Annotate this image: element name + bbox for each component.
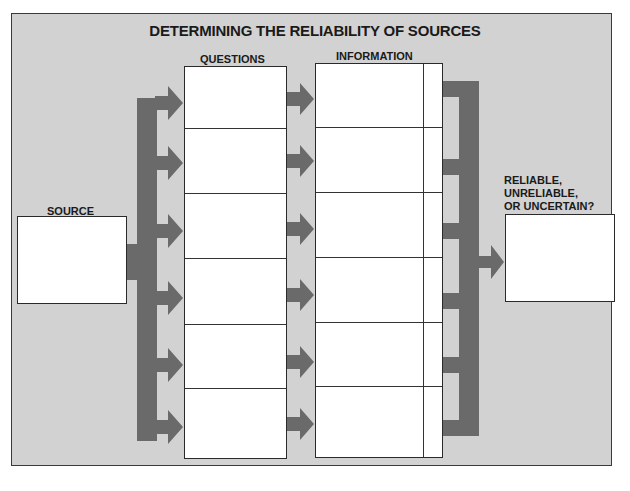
arrow-icon xyxy=(155,348,183,382)
arrow-icon xyxy=(155,86,183,120)
bracket-tab xyxy=(443,81,463,97)
verdict-label: RELIABLE, UNRELIABLE, OR UNCERTAIN? xyxy=(504,174,594,213)
arrow-icon xyxy=(155,281,183,315)
bracket-tab xyxy=(443,223,463,239)
info-to-verdict-arrow xyxy=(479,245,504,279)
bracket-tab xyxy=(443,420,463,436)
arrow-icon xyxy=(286,346,314,378)
arrow-icon xyxy=(286,83,314,115)
questions-column xyxy=(184,66,287,459)
source-to-question-arrows xyxy=(155,86,183,444)
arrow-icon xyxy=(155,410,183,444)
bracket-tab xyxy=(443,159,463,175)
source-box[interactable] xyxy=(17,216,127,304)
arrow-icon xyxy=(155,214,183,248)
bracket-tab xyxy=(443,293,463,309)
arrow-icon xyxy=(286,408,314,440)
arrow-icon xyxy=(479,245,504,279)
arrow-icon xyxy=(155,146,183,180)
information-column xyxy=(315,63,443,458)
bracket-tab xyxy=(443,357,463,373)
arrow-icon xyxy=(286,145,314,177)
arrow-icon xyxy=(286,213,314,245)
questions-label: QUESTIONS xyxy=(200,53,265,66)
information-label: INFORMATION xyxy=(336,50,413,63)
arrow-icon xyxy=(286,279,314,311)
question-to-info-arrows xyxy=(286,83,314,440)
verdict-box[interactable] xyxy=(505,214,615,302)
right-trunk-bar xyxy=(459,81,479,436)
